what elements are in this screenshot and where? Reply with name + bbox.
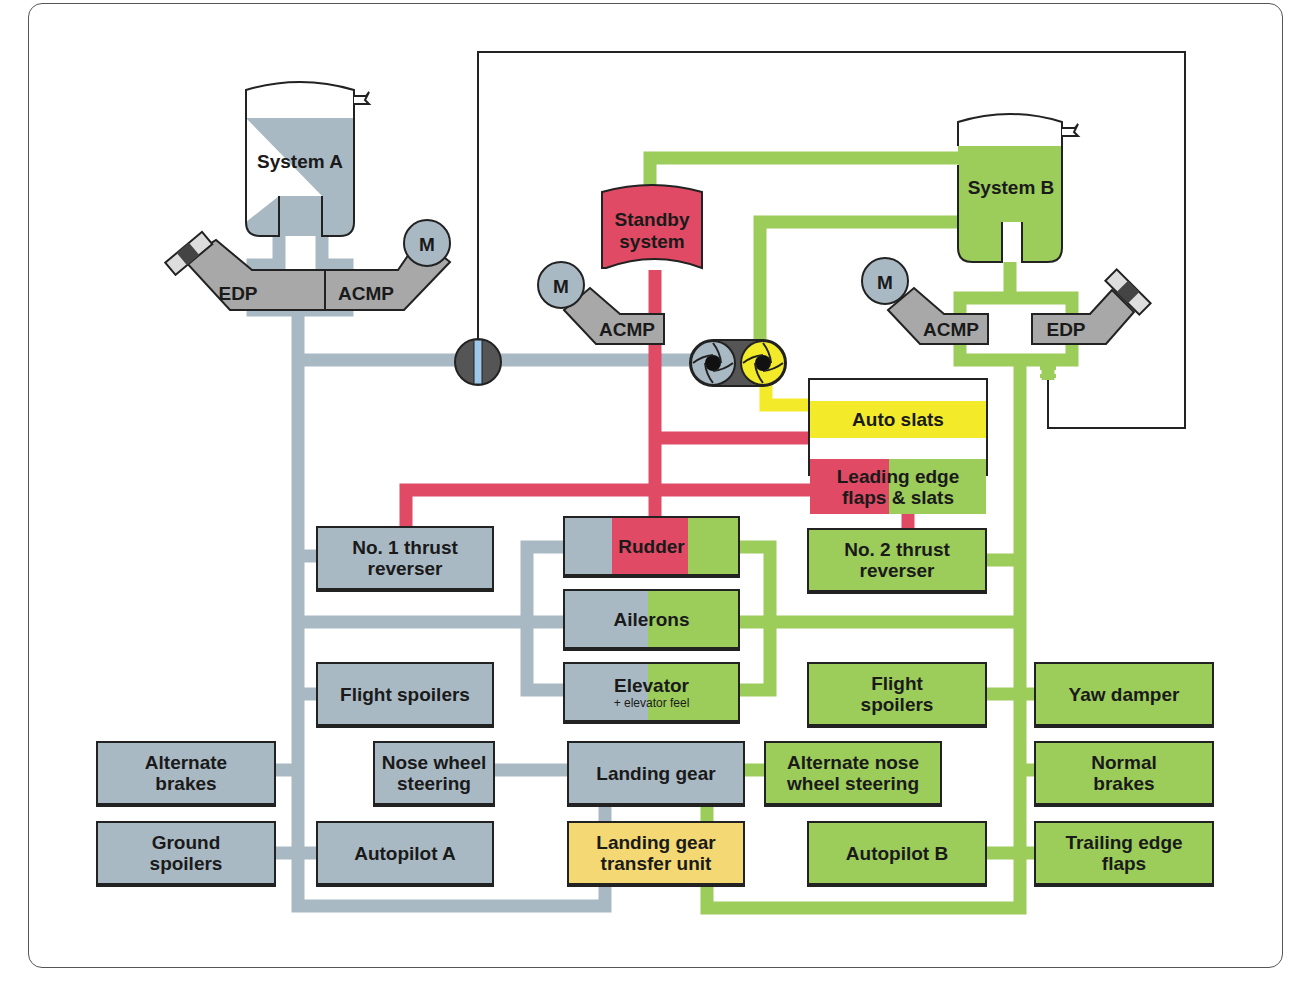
edp-b-label: EDP [1046, 319, 1085, 340]
flight-spoilers-a-box: Flight spoilers [316, 662, 494, 728]
acmp-pump-standby: M ACMP [538, 262, 664, 344]
autopilot-b-box: Autopilot B [807, 821, 987, 887]
acmp-b-label: ACMP [923, 319, 979, 340]
normal-brakes-box: Normal brakes [1034, 741, 1214, 807]
ground-spoilers-box: Ground spoilers [96, 821, 276, 887]
yaw-damper-box: Yaw damper [1034, 662, 1214, 728]
reservoir-system-a: System A [246, 82, 369, 236]
ailerons-box: Ailerons [563, 589, 740, 651]
reservoir-system-b: System B [958, 114, 1078, 262]
elevator-box: Elevator + elevator feel [563, 662, 740, 724]
thrust-reverser-1-box: No. 1 thrust reverser [316, 526, 494, 592]
auto-slats-box: Auto slats [810, 401, 986, 438]
alternate-brakes-box: Alternate brakes [96, 741, 276, 807]
edp-pump-a: EDP [165, 232, 330, 310]
elevator-feel-label: + elevator feel [614, 696, 690, 710]
reservoir-standby: Standby system [602, 185, 702, 268]
acmp-a-label: ACMP [338, 283, 394, 304]
edp-pump-b: EDP [1032, 269, 1151, 344]
system-a-label: System A [257, 151, 343, 172]
landing-gear-box: Landing gear [567, 741, 745, 807]
alt-nose-wheel-steering-box: Alternate nose wheel steering [764, 741, 942, 807]
system-b-label: System B [968, 177, 1055, 198]
thrust-reverser-2-box: No. 2 thrust reverser [807, 528, 987, 594]
edp-a-label: EDP [218, 283, 257, 304]
trailing-edge-flaps-box: Trailing edge flaps [1034, 821, 1214, 887]
rudder-box: Rudder [563, 516, 740, 578]
motor-b-label: M [877, 272, 893, 293]
flight-spoilers-b-box: Flight spoilers [807, 662, 987, 728]
acmp-standby-label: ACMP [599, 319, 655, 340]
valve-icon [455, 339, 501, 385]
autopilot-a-box: Autopilot A [316, 821, 494, 887]
leading-edge-box: Leading edge flaps & slats [810, 459, 986, 514]
motor-standby-label: M [553, 276, 569, 297]
auto-slats-leading-edge-group: Auto slats Leading edge flaps & slats [808, 378, 988, 476]
nose-wheel-steering-box: Nose wheel steering [373, 741, 495, 807]
motor-a-label: M [419, 234, 435, 255]
power-transfer-unit-icon [690, 340, 786, 386]
elevator-label: Elevator [614, 675, 689, 696]
standby-label-2: system [619, 231, 685, 252]
standby-label-1: Standby [615, 209, 690, 230]
landing-gear-transfer-unit-box: Landing gear transfer unit [567, 821, 745, 887]
control-wire [478, 52, 1185, 428]
